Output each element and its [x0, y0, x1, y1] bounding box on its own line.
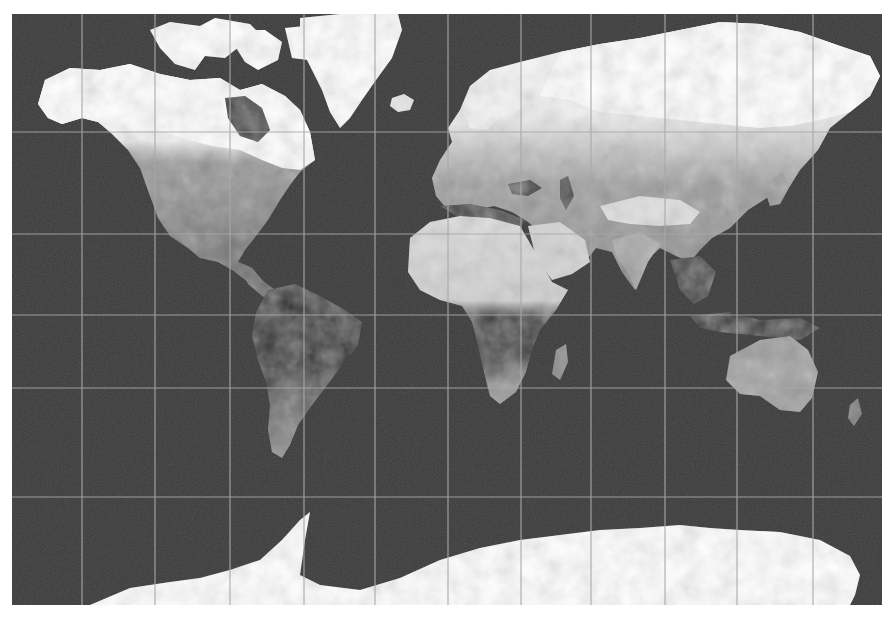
world-map [12, 14, 882, 605]
